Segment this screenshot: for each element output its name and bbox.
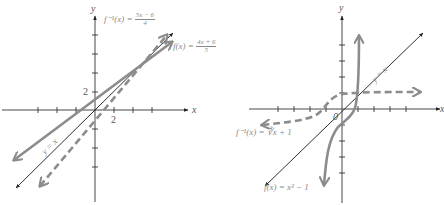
- right-function-curve: [324, 36, 359, 185]
- left-x-tick-label-2: 2: [111, 115, 116, 125]
- left-x-axis-label: x: [192, 105, 196, 115]
- inverse-functions-figure: y x 2 2 f⁻¹(x) = 5x − 6 4 f(x) = 4x + 6 …: [0, 0, 444, 205]
- left-inverse-curve: [40, 35, 167, 186]
- left-function-label-fraction: 4x + 6 5: [196, 39, 216, 54]
- left-inverse-label-prefix: f⁻¹(x) =: [104, 14, 135, 24]
- left-function-denominator: 5: [203, 47, 209, 54]
- left-inverse-label-fraction: 5x − 6 4: [135, 12, 155, 27]
- right-x-axis-label: x: [440, 104, 444, 114]
- right-inverse-curve: [262, 92, 420, 125]
- left-function-label-prefix: f(x) =: [173, 41, 196, 51]
- left-graph: [2, 16, 188, 202]
- left-inverse-label: f⁻¹(x) = 5x − 6 4: [104, 12, 155, 27]
- graphs-canvas: [0, 0, 444, 205]
- right-y-axis-label: y: [339, 3, 343, 13]
- left-y-axis-label: y: [91, 4, 95, 14]
- right-origin-label: 0: [333, 112, 338, 122]
- left-function-curve: [14, 42, 172, 160]
- right-graph: [249, 16, 440, 203]
- left-function-label: f(x) = 4x + 6 5: [173, 39, 216, 54]
- right-identity-line: [265, 33, 423, 186]
- right-function-label: f(x) = x³ − 1: [264, 183, 309, 192]
- left-inverse-denominator: 4: [142, 20, 148, 27]
- right-inverse-label: f⁻¹(x) = ∛x + 1: [236, 128, 292, 137]
- left-y-tick-label-2: 2: [83, 87, 88, 97]
